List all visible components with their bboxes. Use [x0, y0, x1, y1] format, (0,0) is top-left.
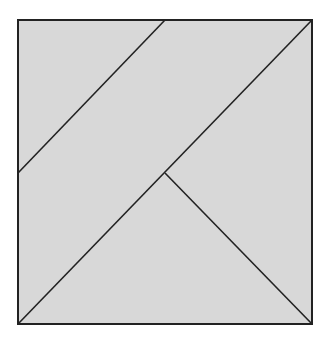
square-dissection-diagram	[0, 0, 330, 342]
